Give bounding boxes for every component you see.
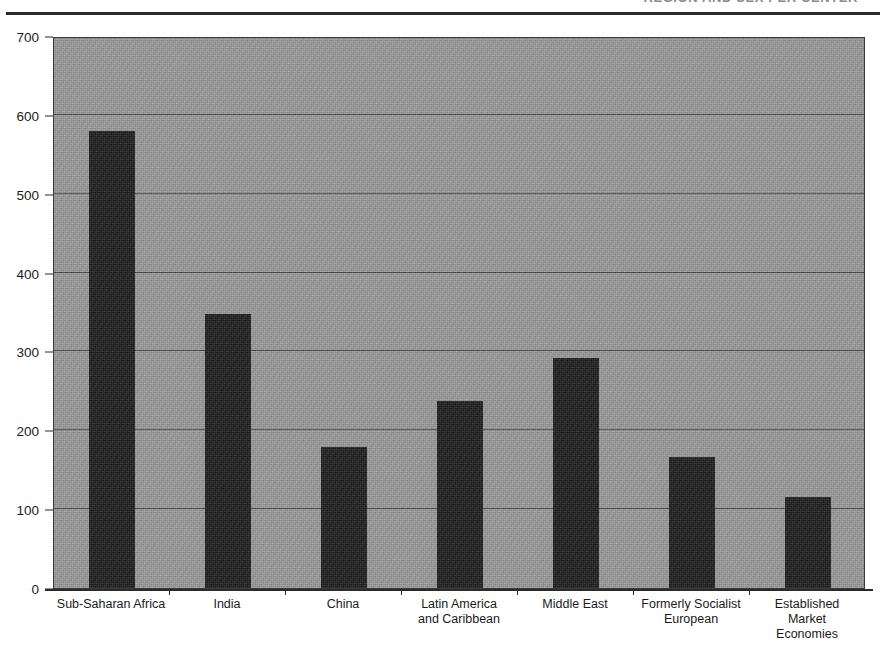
- x-axis-labels: Sub-Saharan AfricaIndiaChinaLatin Americ…: [53, 597, 865, 645]
- y-axis-tick-label-600: 600: [16, 108, 39, 123]
- bar: [669, 457, 715, 588]
- x-axis-category-label: Formerly Socialist European: [633, 597, 749, 627]
- x-axis-tick-mark: [169, 589, 170, 595]
- x-axis-category-label: China: [285, 597, 401, 612]
- x-axis-tick-mark: [401, 589, 402, 595]
- x-axis-category-label: Latin America and Caribbean: [401, 597, 517, 627]
- x-axis-tick-mark: [517, 589, 518, 595]
- x-axis-category-label: Sub-Saharan Africa: [53, 597, 169, 612]
- gridline-500: [54, 193, 864, 194]
- bar-chart: 0100200300400500600700 Sub-Saharan Afric…: [0, 0, 886, 645]
- x-axis-tick-mark: [749, 589, 750, 595]
- y-axis-tick-label-300: 300: [16, 345, 39, 360]
- y-axis-tick-mark-400: [45, 273, 53, 274]
- x-axis-category-label: Established Market Economies: [749, 597, 865, 642]
- bar: [205, 314, 251, 588]
- bar: [785, 497, 831, 588]
- y-axis-tick-label-700: 700: [16, 30, 39, 45]
- y-axis-tick-mark-600: [45, 115, 53, 116]
- x-axis-category-label: India: [169, 597, 285, 612]
- gridline-600: [54, 114, 864, 115]
- y-axis-tick-label-400: 400: [16, 266, 39, 281]
- bar: [89, 131, 135, 588]
- y-axis-tick-mark-200: [45, 431, 53, 432]
- x-axis-tick-mark: [285, 589, 286, 595]
- y-axis-tick-label-200: 200: [16, 424, 39, 439]
- y-axis-tick-mark-300: [45, 352, 53, 353]
- y-axis-tick-mark-500: [45, 194, 53, 195]
- bar: [553, 358, 599, 588]
- bar: [437, 401, 483, 588]
- gridline-300: [54, 350, 864, 351]
- bar: [321, 447, 367, 588]
- x-axis-category-label: Middle East: [517, 597, 633, 612]
- y-axis-tick-label-0: 0: [31, 582, 39, 597]
- y-axis-tick-label-500: 500: [16, 187, 39, 202]
- y-axis-tick-label-100: 100: [16, 503, 39, 518]
- y-axis-tick-mark-700: [45, 37, 53, 38]
- x-axis-tick-mark: [633, 589, 634, 595]
- gridline-400: [54, 272, 864, 273]
- y-axis: 0100200300400500600700: [0, 0, 53, 645]
- plot-area: [53, 37, 865, 589]
- y-axis-tick-mark-100: [45, 510, 53, 511]
